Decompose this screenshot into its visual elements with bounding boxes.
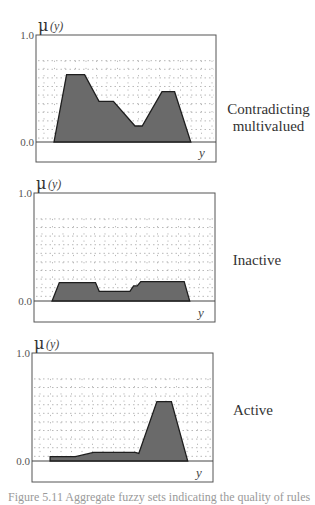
dotted-grid — [34, 379, 211, 458]
label-active: Active — [222, 402, 284, 419]
plot-frame — [32, 353, 213, 482]
chart-active: 1.00.0μ(y)y Active — [0, 0, 315, 490]
label-line: Active — [222, 402, 284, 419]
y-tick-1: 1.0 — [16, 347, 30, 359]
x-axis-label: y — [194, 465, 202, 480]
fuzzy-set-area — [50, 402, 188, 461]
y-axis-variable: (y) — [46, 337, 59, 351]
figure-caption: Figure 5.11 Aggregate fuzzy sets indicat… — [8, 490, 310, 505]
y-tick-0: 0.0 — [16, 455, 30, 467]
y-axis-label: μ — [34, 334, 44, 353]
